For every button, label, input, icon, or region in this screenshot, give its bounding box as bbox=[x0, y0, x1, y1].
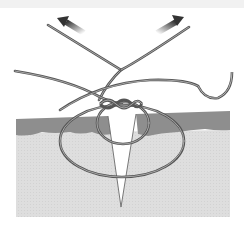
arrow-left-icon bbox=[57, 16, 84, 33]
pull-arrows bbox=[57, 15, 184, 33]
suture-diagram bbox=[0, 0, 244, 230]
arrow-right-icon bbox=[157, 15, 184, 33]
curved-needle-icon bbox=[198, 72, 232, 98]
